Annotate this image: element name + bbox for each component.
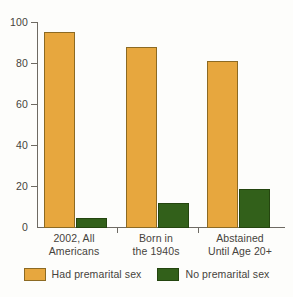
x-category-label-2-line2: the 1940s (110, 245, 202, 258)
y-tick-label-80: 80 (0, 58, 28, 68)
bar-chart: 100 80 60 40 20 0 2002, All Americans Bo… (0, 0, 293, 297)
x-category-label-2: Born in the 1940s (110, 232, 202, 258)
chart-legend: Had premarital sex No premarital sex (0, 268, 293, 281)
bar-group3-had-premarital-sex (207, 61, 238, 228)
bar-group2-had-premarital-sex (126, 47, 157, 228)
bar-group1-had-premarital-sex (44, 32, 75, 228)
legend-item-had-premarital-sex: Had premarital sex (24, 268, 142, 281)
x-category-label-1: 2002, All Americans (28, 232, 120, 258)
x-category-label-3-line1: Abstained (191, 232, 289, 245)
y-tick-label-100: 100 (0, 17, 28, 27)
x-category-label-3: Abstained Until Age 20+ (191, 232, 289, 258)
y-tick-label-40: 40 (0, 140, 28, 150)
x-category-label-1-line2: Americans (28, 245, 120, 258)
y-tick-label-20: 20 (0, 181, 28, 191)
legend-swatch-orange-icon (24, 268, 46, 281)
x-category-label-1-line1: 2002, All (28, 232, 120, 245)
legend-swatch-green-icon (157, 268, 179, 281)
bar-group1-no-premarital-sex (76, 218, 107, 228)
bar-group2-no-premarital-sex (158, 203, 189, 228)
legend-item-no-premarital-sex: No premarital sex (157, 268, 269, 281)
y-tick-label-0: 0 (0, 222, 28, 232)
legend-label-had-premarital-sex: Had premarital sex (52, 269, 142, 280)
y-tick-label-60: 60 (0, 99, 28, 109)
plot-area (38, 22, 284, 228)
bar-group3-no-premarital-sex (239, 189, 270, 228)
legend-label-no-premarital-sex: No premarital sex (185, 269, 269, 280)
x-category-label-2-line1: Born in (110, 232, 202, 245)
x-category-label-3-line2: Until Age 20+ (191, 245, 289, 258)
